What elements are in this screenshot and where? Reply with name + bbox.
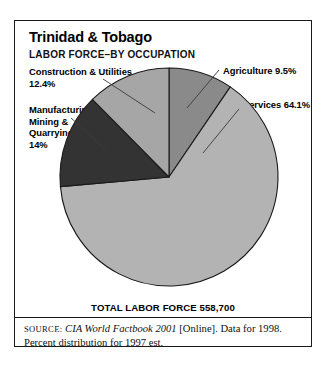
figure-frame: Trinidad & Tobago LABOR FORCE–BY OCCUPAT… (14, 20, 312, 347)
pie-slices (60, 68, 278, 286)
source-word: SOURCE: (24, 324, 62, 334)
total-labor-force-label: TOTAL LABOR FORCE 558,700 (15, 302, 311, 313)
source-note: SOURCE: CIA World Factbook 2001 [Online]… (24, 322, 303, 350)
source-publication: CIA World Factbook 2001 (65, 323, 177, 334)
pie-chart (15, 21, 313, 348)
source-divider (15, 317, 311, 318)
